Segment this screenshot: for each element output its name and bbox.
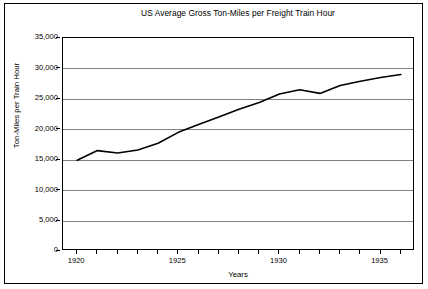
x-axis-tick-mark (339, 250, 340, 254)
x-axis-tick-mark (380, 250, 381, 254)
x-axis-tick-label: 1930 (258, 256, 298, 265)
y-axis-tick-mark (56, 37, 60, 38)
x-axis-tick-labels: 1920192519301935 (0, 256, 428, 268)
x-axis-tick-label: 1925 (157, 256, 197, 265)
x-axis-tick-mark (278, 250, 279, 254)
x-axis-tick-mark (137, 250, 138, 254)
y-axis-tick-mark (56, 220, 60, 221)
x-axis-tick-mark (218, 250, 219, 254)
y-axis-tick-marks (0, 37, 62, 250)
x-axis-tick-mark (177, 250, 178, 254)
chart-screenshot: US Average Gross Ton-Miles per Freight T… (0, 0, 428, 289)
x-axis-tick-mark (157, 250, 158, 254)
x-axis-tick-marks (62, 250, 415, 255)
x-axis-tick-mark (319, 250, 320, 254)
y-axis-tick-mark (56, 128, 60, 129)
x-axis-title: Years (62, 270, 414, 279)
x-axis-tick-mark (76, 250, 77, 254)
plot-area (62, 37, 414, 250)
x-axis-tick-label: 1935 (360, 256, 400, 265)
x-axis-tick-mark (238, 250, 239, 254)
y-axis-tick-mark (56, 98, 60, 99)
chart-title: US Average Gross Ton-Miles per Freight T… (62, 8, 414, 18)
x-axis-tick-mark (198, 250, 199, 254)
x-axis-tick-mark (96, 250, 97, 254)
y-axis-tick-mark (56, 189, 60, 190)
data-line-series (63, 38, 414, 250)
x-axis-tick-mark (117, 250, 118, 254)
x-axis-tick-mark (258, 250, 259, 254)
x-axis-tick-mark (299, 250, 300, 254)
y-axis-tick-mark (56, 250, 60, 251)
x-axis-tick-mark (400, 250, 401, 254)
y-axis-tick-mark (56, 159, 60, 160)
x-axis-tick-label: 1920 (56, 256, 96, 265)
x-axis-tick-mark (359, 250, 360, 254)
y-axis-tick-mark (56, 67, 60, 68)
